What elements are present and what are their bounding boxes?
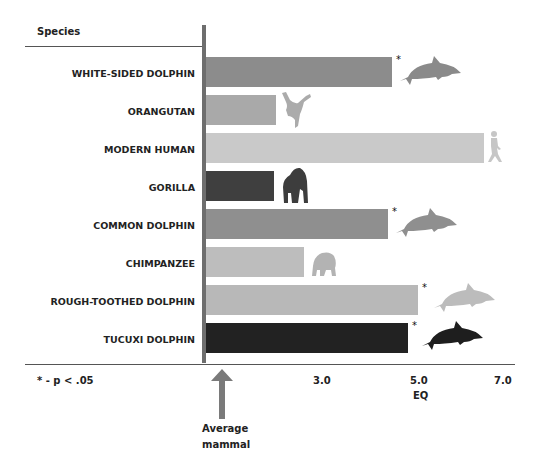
human-icon xyxy=(486,130,504,164)
x-tick-5: 5.0 xyxy=(410,375,428,386)
row-label: COMMON DOLPHIN xyxy=(93,220,195,231)
dolphin-icon xyxy=(432,282,498,314)
x-tick-3: 3.0 xyxy=(313,375,331,386)
average-label-line2: mammal xyxy=(202,437,250,453)
row-label: GORILLA xyxy=(149,182,195,193)
bar-tucuxi-dolphin xyxy=(206,323,408,353)
significance-star: * xyxy=(422,282,427,293)
bar-common-dolphin xyxy=(206,209,388,239)
row-label: TUCUXI DOLPHIN xyxy=(104,334,195,345)
average-mammal-label: Average mammal xyxy=(202,421,250,453)
row-label: MODERN HUMAN xyxy=(104,144,195,155)
x-tick-7: 7.0 xyxy=(494,375,512,386)
row-label: ROUGH-TOOTHED DOLPHIN xyxy=(50,296,195,307)
significance-star: * xyxy=(412,320,417,331)
bar-modern-human xyxy=(206,133,484,163)
orangutan-icon xyxy=(280,90,312,130)
bar-gorilla xyxy=(206,171,274,201)
gorilla-icon xyxy=(280,165,310,205)
dolphin-icon xyxy=(394,207,460,239)
row-label: CHIMPANZEE xyxy=(126,258,195,269)
chimpanzee-icon xyxy=(310,248,338,278)
dolphin-icon xyxy=(398,55,464,87)
row-label: WHITE-SIDED DOLPHIN xyxy=(72,68,195,79)
bar-chimpanzee xyxy=(206,247,304,277)
bar-white-sided-dolphin xyxy=(206,57,392,87)
significance-footnote: * - p < .05 xyxy=(37,375,94,386)
row-label: ORANGUTAN xyxy=(128,106,195,117)
average-label-line1: Average xyxy=(202,421,250,437)
bar-orangutan xyxy=(206,95,276,125)
x-axis-line xyxy=(25,364,515,365)
species-column-header: Species xyxy=(37,26,80,37)
dolphin-icon xyxy=(420,320,486,352)
up-arrow-icon xyxy=(211,369,233,419)
x-axis-label: EQ xyxy=(413,390,428,401)
header-divider xyxy=(25,46,202,47)
bar-rough-toothed-dolphin xyxy=(206,285,418,315)
